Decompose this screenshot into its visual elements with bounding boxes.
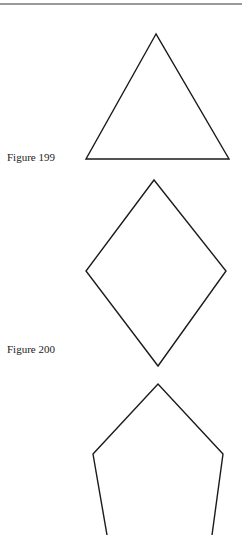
figure-200-label: Figure 200 <box>7 343 55 355</box>
figures-canvas <box>0 0 242 535</box>
triangle-figure <box>86 34 229 159</box>
pentagon-figure <box>93 384 223 535</box>
rhombus-figure <box>86 180 226 366</box>
figure-199-label: Figure 199 <box>7 151 55 163</box>
